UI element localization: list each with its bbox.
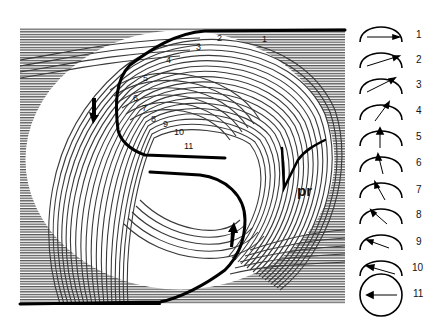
key-gauge-4: [360, 102, 402, 121]
key-label-6: 6: [416, 157, 422, 168]
position-label-1: 1: [262, 34, 267, 44]
key-gauge-3: [360, 78, 402, 94]
key-label-9: 9: [416, 236, 422, 247]
key-gauge-9: [360, 235, 402, 250]
position-label-10: 10: [174, 127, 184, 137]
key-label-5: 5: [416, 131, 422, 142]
key-gauge-1: [360, 27, 402, 42]
position-label-6: 6: [133, 93, 138, 103]
key-gauge-7: [360, 182, 402, 200]
key-gauge-2: [360, 53, 402, 68]
flow-diagram: 1 2 3 4 5 6 7 8 9 10 11 pr 1 2 3 4 5 6 7…: [0, 0, 443, 332]
flow-field-drawing: [0, 0, 443, 332]
position-label-7: 7: [142, 103, 147, 113]
position-label-11: 11: [184, 141, 193, 151]
position-label-8: 8: [151, 114, 156, 124]
position-label-2: 2: [217, 33, 222, 43]
direction-key: [360, 27, 402, 316]
position-label-5: 5: [143, 73, 148, 83]
key-label-4: 4: [416, 105, 422, 116]
position-label-9: 9: [163, 119, 168, 129]
position-label-4: 4: [166, 55, 171, 65]
key-gauge-11: [360, 274, 402, 316]
key-label-2: 2: [416, 54, 422, 65]
key-label-1: 1: [416, 29, 422, 40]
key-label-8: 8: [416, 209, 422, 220]
region-label-pr: pr: [297, 182, 312, 199]
key-gauge-5: [360, 128, 402, 148]
key-gauge-6: [360, 154, 402, 174]
key-label-11: 11: [413, 288, 423, 299]
key-label-10: 10: [412, 262, 423, 273]
key-label-3: 3: [416, 79, 422, 90]
key-gauge-8: [360, 209, 402, 224]
position-label-3: 3: [196, 42, 201, 52]
key-label-7: 7: [416, 184, 422, 195]
